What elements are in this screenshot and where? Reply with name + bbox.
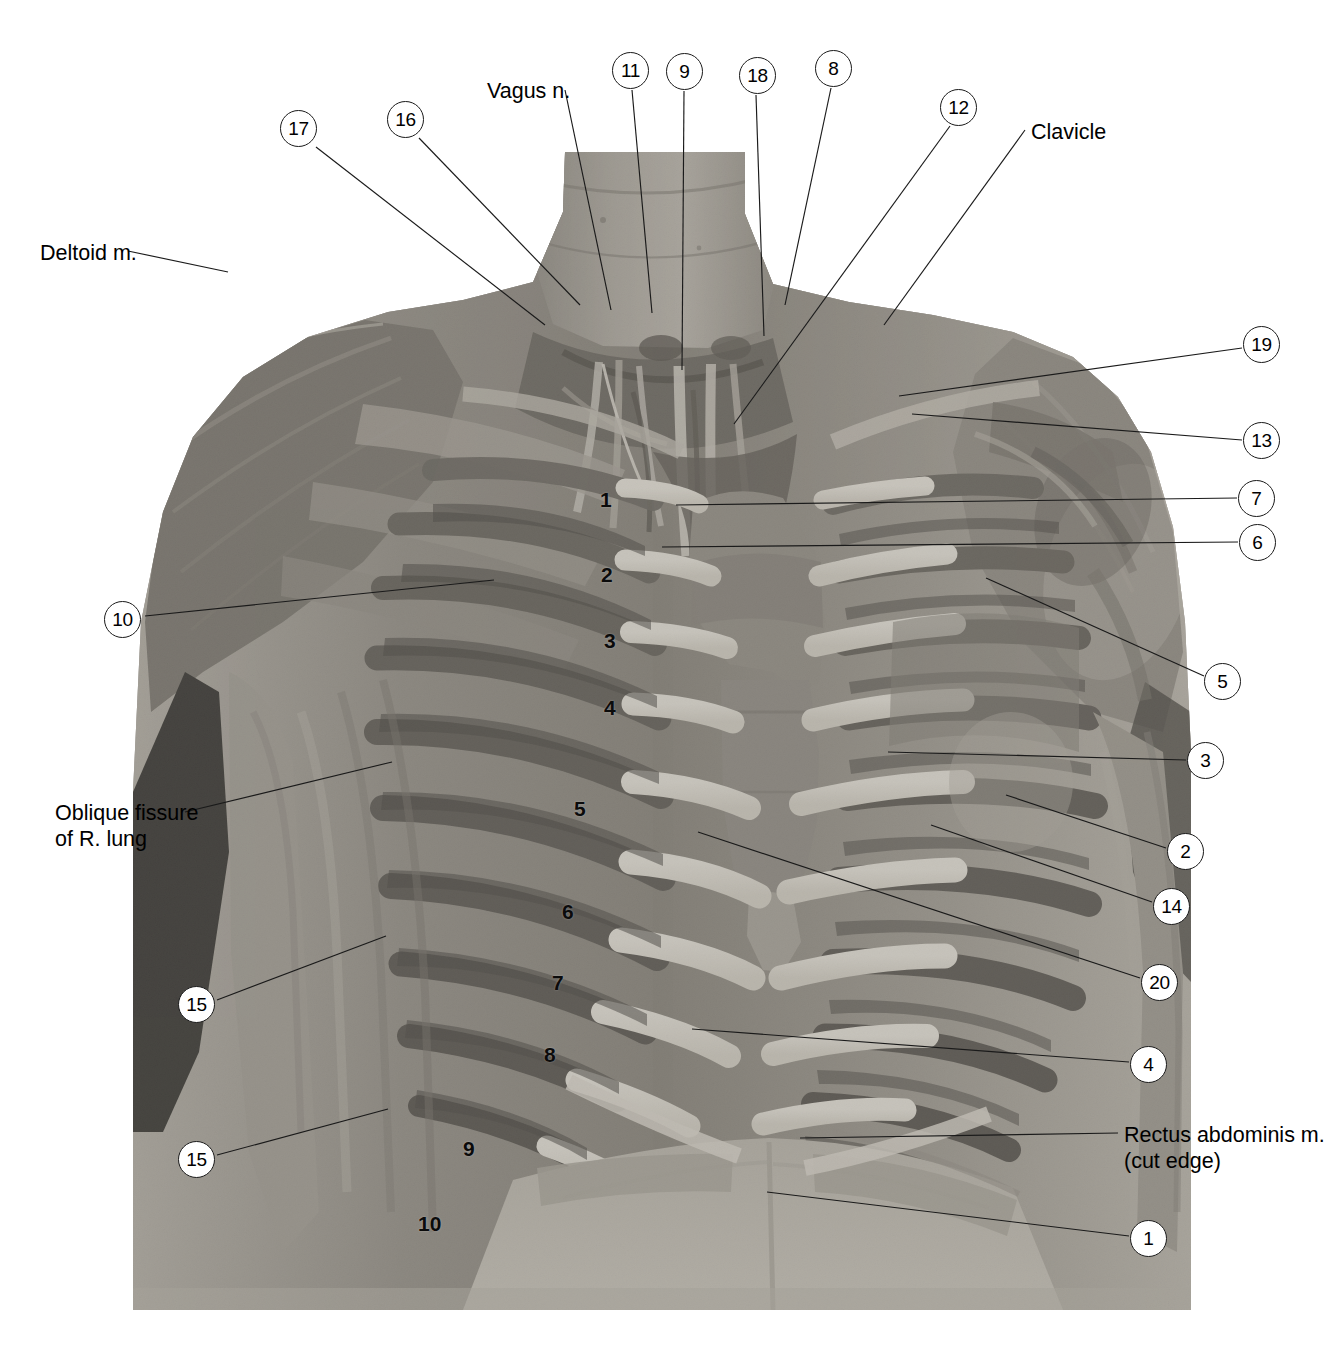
marker-label: 9	[679, 62, 689, 81]
marker-7: 7	[1238, 480, 1275, 517]
anatomy-photograph	[133, 152, 1191, 1310]
text-label-deltoid: Deltoid m.	[40, 240, 137, 266]
marker-label: 6	[1252, 533, 1262, 552]
marker-15: 15	[178, 1141, 215, 1178]
figure-page: 12345678910 1716119188121913765321420411…	[0, 0, 1338, 1349]
rib-numeral-7: 7	[552, 971, 564, 995]
marker-label: 15	[186, 995, 207, 1014]
marker-label: 7	[1251, 489, 1261, 508]
text-label-line: Oblique fissure	[55, 800, 198, 826]
marker-15: 15	[178, 986, 215, 1023]
marker-label: 2	[1180, 842, 1190, 861]
marker-4: 4	[1130, 1046, 1167, 1083]
text-label-line: (cut edge)	[1124, 1148, 1325, 1174]
marker-6: 6	[1239, 524, 1276, 561]
marker-2: 2	[1167, 833, 1204, 870]
marker-9: 9	[666, 53, 703, 90]
rib-numeral-2: 2	[601, 563, 613, 587]
marker-label: 17	[288, 119, 309, 138]
marker-3: 3	[1187, 742, 1224, 779]
marker-1: 1	[1130, 1220, 1167, 1257]
marker-19: 19	[1243, 326, 1280, 363]
marker-16: 16	[387, 101, 424, 138]
marker-label: 13	[1251, 431, 1272, 450]
marker-label: 1	[1143, 1229, 1153, 1248]
text-label-line: Deltoid m.	[40, 240, 137, 266]
marker-13: 13	[1243, 422, 1280, 459]
rib-numeral-5: 5	[574, 797, 586, 821]
torso-body	[133, 152, 1191, 1310]
photograph-content	[133, 152, 1191, 1310]
marker-11: 11	[612, 52, 649, 89]
marker-label: 18	[747, 66, 768, 85]
marker-label: 4	[1143, 1055, 1153, 1074]
marker-label: 19	[1251, 335, 1272, 354]
rib-numeral-9: 9	[463, 1137, 475, 1161]
marker-10: 10	[104, 601, 141, 638]
marker-17: 17	[280, 110, 317, 147]
text-label-vagus: Vagus n.	[487, 78, 570, 104]
rib-numeral-4: 4	[604, 696, 616, 720]
text-label-line: Rectus abdominis m.	[1124, 1122, 1325, 1148]
rib-numeral-1: 1	[600, 488, 612, 512]
marker-5: 5	[1204, 663, 1241, 700]
marker-label: 12	[948, 98, 969, 117]
marker-label: 10	[112, 610, 133, 629]
text-label-line: Vagus n.	[487, 78, 570, 104]
rib-numeral-3: 3	[604, 629, 616, 653]
text-label-clavicle: Clavicle	[1031, 119, 1106, 145]
marker-20: 20	[1141, 964, 1178, 1001]
marker-label: 8	[828, 59, 838, 78]
marker-12: 12	[940, 89, 977, 126]
text-label-line: Clavicle	[1031, 119, 1106, 145]
rib-numeral-6: 6	[562, 900, 574, 924]
marker-label: 5	[1217, 672, 1227, 691]
text-label-oblique-fissure: Oblique fissureof R. lung	[55, 800, 198, 852]
marker-18: 18	[739, 57, 776, 94]
marker-8: 8	[815, 50, 852, 87]
marker-label: 20	[1149, 973, 1170, 992]
marker-label: 16	[395, 110, 416, 129]
rib-numeral-8: 8	[544, 1043, 556, 1067]
marker-14: 14	[1153, 888, 1190, 925]
marker-label: 3	[1200, 751, 1210, 770]
marker-label: 14	[1161, 897, 1182, 916]
marker-label: 15	[186, 1150, 207, 1169]
rib-numeral-10: 10	[418, 1212, 441, 1236]
text-label-line: of R. lung	[55, 826, 198, 852]
marker-label: 11	[621, 61, 640, 80]
text-label-rectus-abdominis: Rectus abdominis m.(cut edge)	[1124, 1122, 1325, 1174]
